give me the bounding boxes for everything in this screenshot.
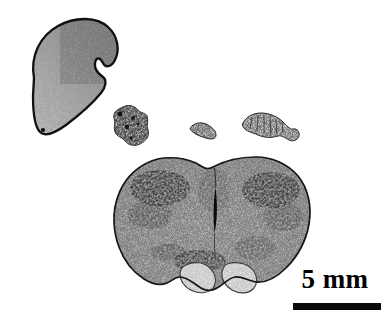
scale-bar-line: [293, 303, 381, 310]
dorsolateral-dark-cluster-left: [130, 170, 190, 206]
fragment-left-speck: [136, 122, 139, 125]
micrograph-figure: 5 mm: [0, 0, 387, 328]
fragment-left-speck: [125, 125, 129, 129]
fragment-left-speck: [129, 136, 133, 140]
scale-bar: 5 mm: [290, 264, 385, 314]
bean-organ-basal-speck: [41, 128, 45, 132]
fragment-left-speck: [118, 112, 123, 117]
fragment-left-speck: [131, 116, 135, 120]
dorsolateral-dark-cluster-right: [242, 172, 300, 208]
scale-bar-label: 5 mm: [290, 264, 380, 294]
